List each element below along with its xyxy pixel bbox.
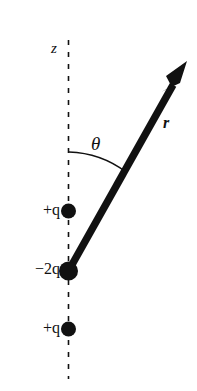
theta-arc: [69, 152, 126, 172]
charge-dot-bottom: [61, 322, 76, 337]
theta-label: θ: [91, 134, 100, 153]
charge-dot-top: [61, 204, 76, 219]
vector-r-label: r: [163, 115, 169, 131]
quadrupole-diagram: z θ r +q −2q +q: [0, 0, 197, 391]
vector-r-shaft: [69, 85, 173, 270]
charge-dot-middle: [59, 262, 78, 281]
charge-label-middle: −2q: [6, 261, 60, 277]
z-axis-label: z: [51, 41, 57, 56]
charge-label-bottom: +q: [10, 320, 60, 336]
charge-label-top: +q: [10, 202, 60, 218]
